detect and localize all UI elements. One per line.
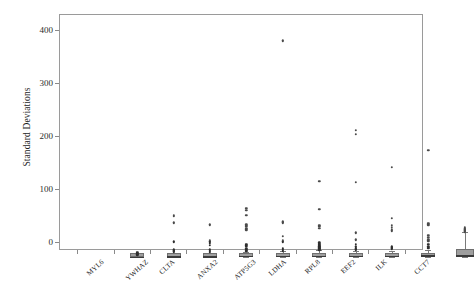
y-tick-label-300: 300 (13, 78, 53, 88)
whisker-cap-lower (462, 257, 468, 258)
x-tick-mark (332, 250, 333, 254)
outlier-point (172, 240, 174, 242)
outlier-point (427, 149, 429, 151)
median-line (130, 257, 144, 258)
x-tick-label-eef2: EEF2 (339, 258, 357, 275)
x-tick-mark (368, 250, 369, 254)
whisker-cap-lower (316, 257, 322, 258)
x-tick-label-cct7: CCT7 (413, 258, 432, 276)
whisker-cap-upper (425, 250, 431, 251)
median-line (276, 256, 290, 257)
median-line (349, 256, 363, 257)
x-tick-label-ywhaz: YWHAZ (124, 258, 150, 283)
x-tick-mark (223, 250, 224, 254)
x-tick-label-anxa2: ANXA2 (196, 258, 220, 281)
x-tick-mark (296, 250, 297, 254)
outlier-point (354, 181, 356, 183)
x-tick-label-ldha: LDHA (268, 258, 289, 278)
whisker-cap-lower (353, 257, 359, 258)
outlier-point (391, 166, 393, 168)
y-tick-label-100: 100 (13, 184, 53, 194)
whisker-cap-upper (353, 251, 359, 252)
median-line (385, 256, 399, 257)
median-line (312, 256, 326, 257)
x-tick-label-atp5g3: ATP5G3 (233, 258, 258, 282)
x-tick-label-myl6: MYL6 (85, 258, 105, 278)
x-tick-mark (114, 250, 115, 254)
y-tick-label-200: 200 (13, 131, 53, 141)
outlier-point (209, 224, 211, 226)
whisker-cap-lower (425, 257, 431, 258)
outlier-point (282, 40, 284, 42)
median-line (167, 256, 181, 257)
outlier-point (354, 129, 356, 131)
outlier-point (354, 133, 356, 135)
x-tick-label-ilk: ILK (375, 258, 390, 272)
outlier-point (391, 217, 393, 219)
x-tick-mark (405, 250, 406, 254)
x-tick-mark (186, 250, 187, 254)
median-line (456, 255, 474, 256)
median-line (239, 256, 253, 257)
outlier-point (318, 208, 320, 210)
plot-frame (59, 14, 423, 250)
outlier-point (245, 214, 247, 216)
x-tick-mark (259, 250, 260, 254)
y-tick-label-400: 400 (13, 25, 53, 35)
x-tick-label-rpl8: RPL8 (303, 258, 321, 276)
y-axis-label: Standard Deviations (22, 9, 36, 245)
outlier-point (318, 180, 320, 182)
outlier-point (354, 232, 356, 234)
median-line (203, 256, 217, 257)
y-tick-label-0: 0 (13, 237, 53, 247)
median-line (421, 255, 435, 256)
outlier-point (354, 238, 356, 240)
outlier-point (282, 235, 284, 237)
x-tick-mark (150, 250, 151, 254)
x-tick-mark (77, 250, 78, 254)
outlier-point (172, 221, 174, 223)
x-tick-label-clta: CLTA (158, 258, 177, 276)
